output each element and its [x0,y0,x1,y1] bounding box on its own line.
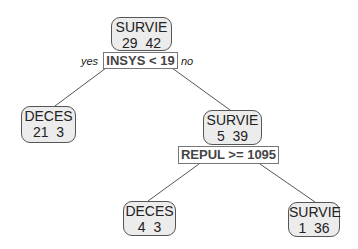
node-counts: 5 39 [204,128,261,144]
node-class: SURVIE [204,112,261,128]
root-counts: 29 42 [112,35,171,51]
leaf-counts: 21 3 [22,124,75,140]
leaf-counts: 1 36 [289,220,339,236]
leaf-deces-left: DECES 21 3 [21,106,76,143]
leaf-class: SURVIE [289,204,339,220]
edge-root-yes [55,68,106,106]
right-split: REPUL >= 1095 [178,146,279,164]
edge-repul-no [260,164,315,202]
yes-label: yes [81,55,98,67]
root-split-label: INSYS < 19 [106,53,174,68]
leaf-survie-bottom: SURVIE 1 36 [288,202,340,237]
right-split-label: REPUL >= 1095 [181,147,276,162]
leaf-deces-bottom: DECES 4 3 [123,201,176,236]
root-split: INSYS < 19 [103,52,178,69]
root-node: SURVIE 29 42 [111,17,172,51]
leaf-class: DECES [22,108,75,124]
edge-root-no [172,68,230,110]
root-class: SURVIE [112,19,171,35]
no-label: no [181,55,193,67]
edge-repul-yes [148,164,199,201]
leaf-class: DECES [124,203,175,219]
leaf-counts: 4 3 [124,219,175,235]
node-survie-right: SURVIE 5 39 [203,110,262,145]
